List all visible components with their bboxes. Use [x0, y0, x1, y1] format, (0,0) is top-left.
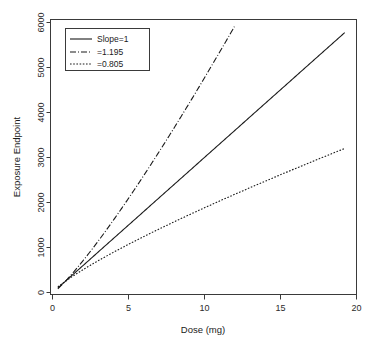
exposure-dose-line-chart: 0 1000 2000 3000 4000 5000 6000 0 5 10 1… [0, 0, 383, 353]
x-tick-label: 5 [126, 303, 131, 313]
chart-background [0, 0, 383, 353]
legend-label-slope-1: Slope=1 [97, 34, 129, 44]
y-tick-label: 1000 [36, 237, 46, 257]
chart-legend: Slope=1 =1.195 =0.805 [66, 29, 150, 71]
y-axis-title: Exposure Endpoint [11, 117, 22, 198]
x-axis-title: Dose (mg) [181, 324, 225, 335]
y-tick-label: 0 [36, 290, 46, 295]
legend-label-slope-1195: =1.195 [97, 47, 124, 57]
x-tick-label: 10 [199, 303, 209, 313]
x-tick-label: 15 [275, 303, 285, 313]
chart-figure: 0 1000 2000 3000 4000 5000 6000 0 5 10 1… [0, 0, 383, 353]
y-tick-label: 4000 [36, 102, 46, 122]
x-tick-label: 0 [50, 303, 55, 313]
y-tick-label: 2000 [36, 192, 46, 212]
y-tick-label: 3000 [36, 147, 46, 167]
y-tick-label: 6000 [36, 12, 46, 32]
legend-label-slope-0805: =0.805 [97, 59, 124, 69]
y-tick-label: 5000 [36, 57, 46, 77]
x-tick-label: 20 [351, 303, 361, 313]
